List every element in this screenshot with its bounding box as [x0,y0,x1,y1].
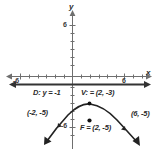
vertex-label: V: = (2, -3) [81,88,114,97]
y-tick-label-neg6: -6 [61,122,67,129]
x-axis-label: x [146,68,150,77]
right-point-label: (6, -5) [131,109,150,118]
x-tick-label-pos6: 6 [122,77,126,84]
x-tick-label-neg6: -6 [13,77,19,84]
focus-dot [87,118,91,122]
figure-canvas: x y -6 6 6 -6 D: y = -1 V: = (2, -3) (-2… [0,0,163,149]
directrix-label: D: y = -1 [33,88,61,97]
y-tick-label-pos6: 6 [63,21,67,28]
focus-label: F = (2, -5) [80,123,111,132]
y-axis-label: y [69,2,73,11]
x-axis-arrow-left [6,74,12,80]
parabola-arrow-left [44,137,52,146]
vertex-dot [88,102,92,106]
directrix-arrow-right [144,81,151,88]
left-point-label: (-2, -5) [27,108,48,117]
